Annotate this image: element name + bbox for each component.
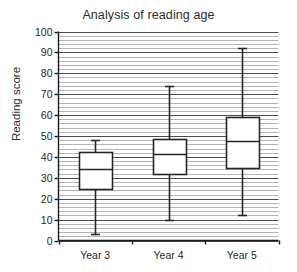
x-tick-label-year-3: Year 3	[58, 250, 132, 261]
y-tick-label: 80	[27, 68, 53, 79]
iqr-box	[227, 118, 260, 169]
y-tick-label: 60	[27, 110, 53, 121]
y-tick-label: 70	[27, 89, 53, 100]
box-plot-year-4	[154, 87, 187, 221]
x-tick-label-year-4: Year 4	[132, 250, 206, 261]
y-tick-label: 10	[27, 215, 53, 226]
y-tick-label: 100	[27, 27, 53, 38]
y-tick-label: 90	[27, 47, 53, 58]
y-tick-label: 30	[27, 173, 53, 184]
y-tick-label: 40	[27, 152, 53, 163]
box-plot-chart: Analysis of reading age Reading score 10…	[0, 0, 297, 272]
y-tick-label: 50	[27, 131, 53, 142]
box-plot-series	[80, 49, 260, 235]
y-tick-label: 0	[27, 236, 53, 247]
iqr-box	[80, 153, 113, 190]
iqr-box	[154, 140, 187, 175]
y-tick-label: 20	[27, 194, 53, 205]
x-tick-label-year-5: Year 5	[205, 250, 279, 261]
